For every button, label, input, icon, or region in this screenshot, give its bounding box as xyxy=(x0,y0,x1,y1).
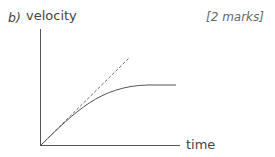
velocity-curve xyxy=(41,85,176,145)
velocity-time-graph xyxy=(0,0,275,157)
